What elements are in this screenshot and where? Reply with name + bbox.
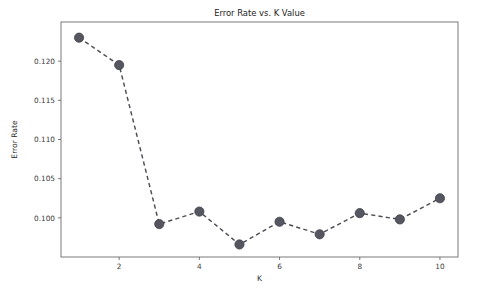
y-axis-tick-label: 0.115 [34, 96, 55, 105]
x-axis-tick-label: 2 [117, 262, 122, 271]
data-point-marker [395, 215, 404, 224]
chart-title: Error Rate vs. K Value [214, 8, 305, 18]
chart-canvas: Error Rate vs. K Value 0.1000.1050.1100.… [0, 0, 479, 290]
data-point-marker [275, 217, 284, 226]
data-point-marker [195, 207, 204, 216]
y-axis-tick-label: 0.105 [34, 174, 55, 183]
data-point-marker [155, 220, 164, 229]
data-point-marker [74, 33, 83, 42]
x-axis-tick-label: 6 [277, 262, 282, 271]
data-point-marker [235, 240, 244, 249]
screenshot-root: Error Rate vs. K Value 0.1000.1050.1100.… [0, 0, 479, 290]
y-axis-title: Error Rate [10, 120, 19, 159]
y-axis-tick-label: 0.110 [34, 135, 55, 144]
data-point-marker [435, 194, 444, 203]
x-axis-tick-label: 8 [357, 262, 362, 271]
data-point-marker [355, 209, 364, 218]
y-axis-tick-label: 0.120 [34, 57, 55, 66]
chart-figure: Error Rate vs. K Value 0.1000.1050.1100.… [0, 0, 479, 290]
x-axis-tick-label: 4 [197, 262, 202, 271]
data-point-marker [315, 230, 324, 239]
y-axis-tick-label: 0.100 [34, 214, 55, 223]
data-point-marker [115, 60, 124, 69]
x-axis-tick-label: 10 [435, 262, 445, 271]
